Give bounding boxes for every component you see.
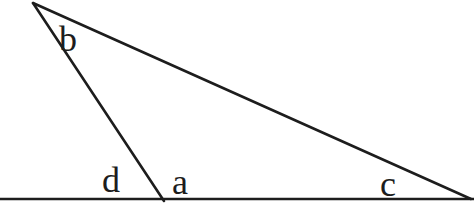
angle-label-d: d <box>102 162 120 198</box>
angle-label-c: c <box>380 166 396 202</box>
geometry-diagram: b d a c <box>0 0 476 208</box>
angle-label-a: a <box>172 164 188 200</box>
angle-label-b: b <box>59 21 77 57</box>
